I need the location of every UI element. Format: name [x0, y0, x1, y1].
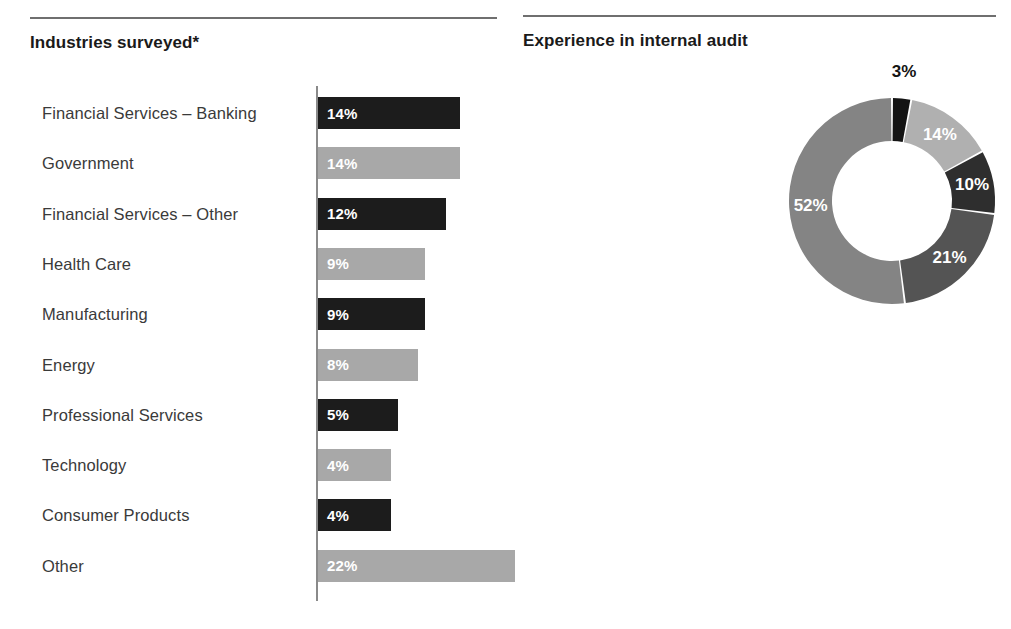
industries-bar-chart: Financial Services – Banking14%Governmen… [0, 0, 510, 629]
bar-category-label: Consumer Products [42, 506, 190, 525]
bar: 4% [318, 499, 391, 531]
bar-value-label: 9% [327, 306, 349, 323]
industries-panel: Industries surveyed* Financial Services … [0, 0, 510, 629]
bar-category-label: Financial Services – Other [42, 204, 238, 223]
experience-panel-title: Experience in internal audit [523, 31, 748, 51]
bar-category-label: Government [42, 154, 134, 173]
bar-row: Energy8% [0, 349, 510, 381]
bar-category-label: Professional Services [42, 405, 203, 424]
donut-slice-label: 21% [933, 248, 967, 267]
bar-value-label: 14% [327, 105, 358, 122]
bar-value-label: 8% [327, 356, 349, 373]
bar: 14% [318, 147, 460, 179]
bar-value-label: 14% [327, 155, 358, 172]
bar-category-label: Financial Services – Banking [42, 104, 257, 123]
bar-value-label: 9% [327, 255, 349, 272]
panel-top-rule [523, 15, 996, 17]
bar-value-label: 4% [327, 457, 349, 474]
experience-donut-chart: 3%14%10%21%52% [770, 60, 1011, 330]
bar-row: Manufacturing9% [0, 298, 510, 330]
bar-row: Health Care9% [0, 248, 510, 280]
bar: 22% [318, 550, 515, 582]
infographic-page: Industries surveyed* Financial Services … [0, 0, 1011, 629]
bar-value-label: 22% [327, 557, 358, 574]
bar-row: Government14% [0, 147, 510, 179]
bar: 12% [318, 198, 446, 230]
bar-category-label: Technology [42, 456, 126, 475]
donut-slice-label: 3% [892, 62, 917, 81]
bar-category-label: Health Care [42, 254, 131, 273]
bar-value-label: 5% [327, 406, 349, 423]
bar-category-label: Energy [42, 355, 95, 374]
bar-row: Financial Services – Other12% [0, 198, 510, 230]
bar-row: Professional Services5% [0, 399, 510, 431]
bar: 5% [318, 399, 398, 431]
donut-slice-label: 52% [794, 196, 828, 215]
bar-value-label: 4% [327, 507, 349, 524]
bar-row: Other22% [0, 550, 510, 582]
bar: 8% [318, 349, 418, 381]
bar-category-label: Other [42, 556, 84, 575]
bar: 4% [318, 449, 391, 481]
bar-value-label: 12% [327, 205, 358, 222]
bar-row: Technology4% [0, 449, 510, 481]
bar: 14% [318, 97, 460, 129]
bar-category-label: Manufacturing [42, 305, 148, 324]
bar: 9% [318, 298, 425, 330]
donut-svg: 3%14%10%21%52% [770, 60, 1011, 330]
bar-row: Financial Services – Banking14% [0, 97, 510, 129]
donut-slice-label: 10% [955, 175, 989, 194]
bar: 9% [318, 248, 425, 280]
donut-slice-label: 14% [923, 125, 957, 144]
bar-row: Consumer Products4% [0, 499, 510, 531]
